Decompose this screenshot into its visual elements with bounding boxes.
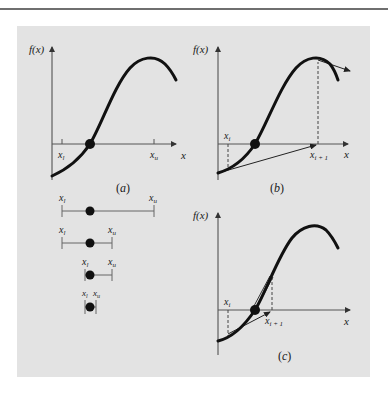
interval-2: xl xu xyxy=(58,224,116,249)
interval-4-lower-label: xl xyxy=(81,288,88,299)
panel-c-root-dot xyxy=(250,305,260,315)
interval-4: xl xu xyxy=(81,288,100,314)
panel-a-root-dot xyxy=(85,139,95,149)
panel-b-tangent-line-1 xyxy=(218,145,316,173)
panel-a: f(x) x xl xu (a) xyxy=(29,43,186,195)
panel-a-caption: (a) xyxy=(116,181,130,195)
panel-b-x-label: x xyxy=(343,148,349,160)
interval-1-midpoint-dot xyxy=(86,207,95,216)
interval-1: xl xu xyxy=(58,192,157,217)
interval-1-upper-label: xu xyxy=(148,192,157,205)
interval-3-lower-label: xl xyxy=(81,256,88,269)
panel-c: f(x) x xi xi + 1 (c) xyxy=(193,209,350,363)
panel-a-xu-label: xu xyxy=(149,149,158,162)
interval-2-upper-label: xu xyxy=(107,224,116,237)
interval-2-lower-label: xl xyxy=(58,224,65,237)
panel-b: f(x) x xi xi + 1 (b) xyxy=(193,43,350,195)
interval-3: xl xu xyxy=(81,256,116,281)
panel-c-x-label: x xyxy=(343,315,349,327)
panel-a-xl-label: xl xyxy=(57,149,64,162)
panel-c-xi1-label: xi + 1 xyxy=(264,315,283,328)
panel-b-root-dot xyxy=(250,139,260,149)
panel-b-caption: (b) xyxy=(270,181,284,195)
interval-1-lower-label: xl xyxy=(58,192,65,205)
panel-c-xi-label: xi xyxy=(223,296,230,309)
panel-c-tangent-line-2a xyxy=(254,276,270,306)
panel-c-tangent-line-1 xyxy=(228,312,270,334)
interval-4-midpoint-dot xyxy=(86,303,95,312)
interval-3-midpoint-dot xyxy=(86,271,95,280)
panel-b-xi1-label: xi + 1 xyxy=(309,149,328,162)
interval-4-upper-label: xu xyxy=(92,288,100,299)
panel-b-xi-label: xi xyxy=(223,130,230,143)
interval-3-upper-label: xu xyxy=(107,256,116,269)
panel-c-y-label: f(x) xyxy=(193,209,209,222)
panel-c-caption: (c) xyxy=(278,349,291,363)
figure-canvas: f(x) x xl xu (a) xl xu xl xu xl xu xyxy=(0,0,388,395)
panel-b-y-label: f(x) xyxy=(193,43,209,56)
panel-a-x-label: x xyxy=(180,149,186,161)
interval-2-midpoint-dot xyxy=(86,239,95,248)
bisection-intervals: xl xu xl xu xl xu xl xu xyxy=(58,192,157,314)
panel-a-y-label: f(x) xyxy=(29,43,45,56)
